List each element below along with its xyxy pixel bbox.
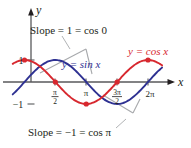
svg-text:π: π	[53, 88, 57, 97]
svg-text:2: 2	[53, 97, 57, 106]
svg-text:3π: 3π	[113, 88, 121, 97]
x-tick-label-two-pi: 2π	[145, 89, 155, 99]
top-slope-annotation: Slope = 1 = cos 0	[30, 24, 107, 36]
x-tick-label-pi-over-2: π 2	[52, 88, 59, 106]
trig-graph-figure: y x 1 −1 π 2 π 3π 2 2π y = sin x y = cos…	[0, 0, 191, 148]
y-axis-label: y	[35, 3, 42, 17]
cosine-curve-label: y = cos x	[127, 45, 168, 57]
tangent-line-at-pi	[103, 95, 140, 128]
svg-text:2: 2	[115, 97, 119, 106]
y-axis	[28, 8, 34, 82]
bottom-slope-annotation: Slope = −1 = cos π	[28, 126, 112, 138]
y-tick-label-negative: −1	[13, 99, 24, 110]
x-tick-label-pi: π	[84, 88, 89, 98]
y-tick-label-positive: 1	[19, 55, 24, 66]
sine-curve-label: y = sin x	[61, 58, 100, 70]
x-axis-label: x	[177, 75, 184, 89]
